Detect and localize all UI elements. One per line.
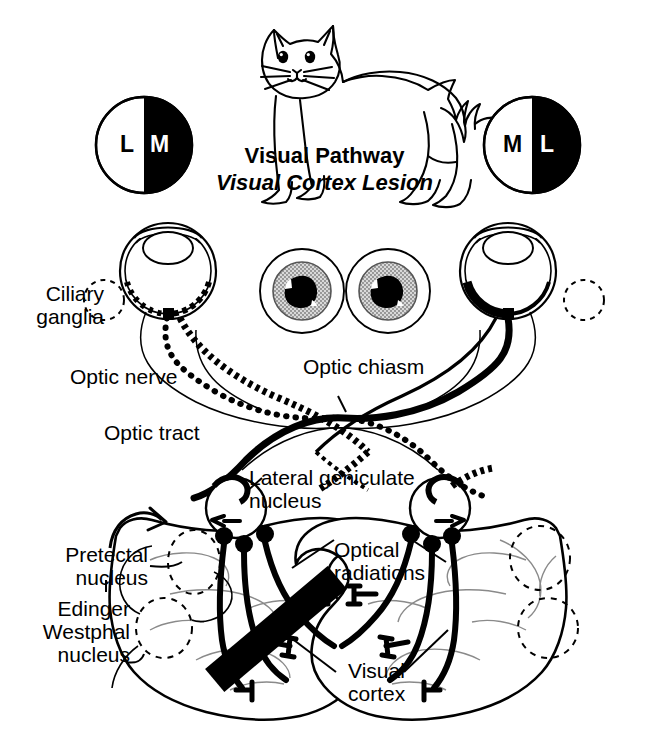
chiasm-outline	[141, 312, 536, 470]
right-field-label-M: M	[503, 131, 522, 158]
visual-pathway-diagram: Visual Pathway Visual Cortex Lesion L M …	[0, 0, 649, 741]
label-visual-cortex: Visual cortex	[348, 659, 405, 705]
left-field-label-M: M	[150, 131, 169, 158]
left-eye-globe	[120, 223, 216, 319]
label-edinger-westphal-nucleus: Edinger Westphal nucleus	[0, 597, 130, 666]
right-ciliary-ganglion	[564, 280, 604, 320]
right-field-label-L: L	[540, 131, 554, 158]
left-field-label-L: L	[120, 131, 134, 158]
label-optic-chiasm: Optic chiasm	[303, 355, 424, 378]
label-lateral-geniculate-nucleus: Lateral geniculate nucleus	[249, 466, 415, 512]
label-pretectal-nucleus: Pretectal nucleus	[0, 543, 148, 589]
right-eye-globe	[460, 223, 556, 319]
label-ciliary-ganglia: Ciliary ganglia	[0, 282, 104, 328]
label-optic-tract: Optic tract	[104, 421, 200, 444]
page-subtitle: Visual Cortex Lesion	[0, 170, 649, 196]
right-pupil-illustration	[346, 249, 430, 333]
label-optic-nerve: Optic nerve	[70, 365, 177, 388]
label-optical-radiations: Optical radiations	[334, 538, 425, 584]
right-lateral-geniculate-nucleus	[410, 477, 470, 538]
left-pupil-illustration	[260, 249, 344, 333]
